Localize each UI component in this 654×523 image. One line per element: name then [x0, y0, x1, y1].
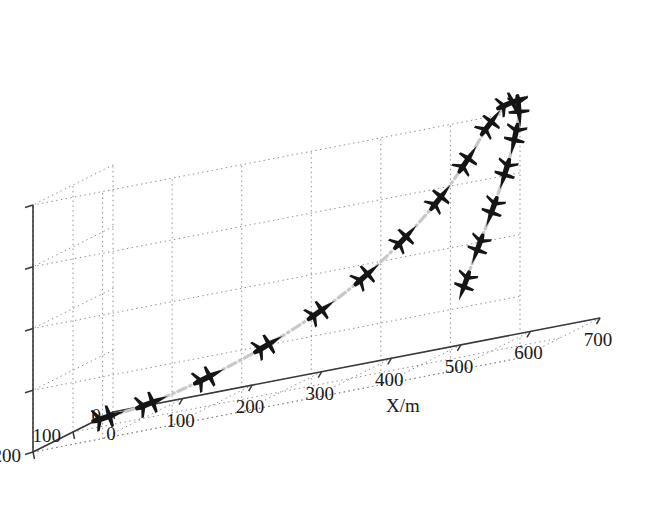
y-tick-label-0: 0 — [92, 405, 102, 426]
chart-figure: 0100200300400500600700X/m0100200 — [0, 0, 654, 523]
x-tick-label-400: 400 — [375, 369, 404, 390]
x-tick-label-500: 500 — [445, 356, 474, 377]
y-tick-label-200: 200 — [0, 445, 21, 466]
plot-background — [0, 0, 654, 523]
x-tick-label-0: 0 — [106, 423, 116, 444]
x-tick-label-100: 100 — [166, 410, 195, 431]
x-tick-label-200: 200 — [236, 396, 265, 417]
trajectory-3d-svg: 0100200300400500600700X/m0100200 — [0, 0, 654, 523]
x-tick-label-600: 600 — [514, 342, 543, 363]
x-tick-label-300: 300 — [305, 383, 334, 404]
x-axis-title: X/m — [386, 395, 420, 416]
x-tick-label-700: 700 — [584, 329, 613, 350]
y-tick-label-100: 100 — [33, 425, 62, 446]
